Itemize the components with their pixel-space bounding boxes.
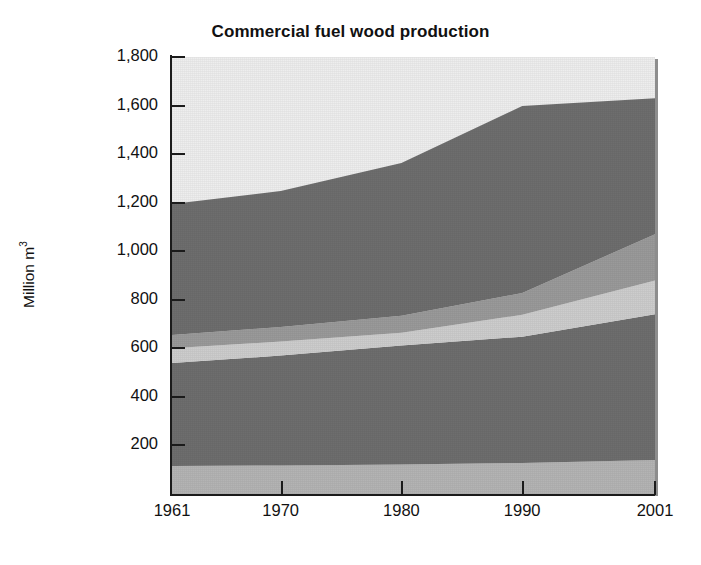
y-axis-line bbox=[170, 55, 172, 496]
y-tick-mark bbox=[172, 105, 185, 107]
x-tick-label: 2001 bbox=[610, 501, 700, 520]
x-tick-label: 1970 bbox=[236, 501, 326, 520]
x-tick-mark bbox=[401, 481, 403, 495]
y-tick-label: 400 bbox=[62, 386, 158, 405]
y-axis-title-text: Million m bbox=[20, 247, 37, 308]
y-tick-label: 1,600 bbox=[62, 95, 158, 114]
y-tick-mark bbox=[172, 153, 185, 155]
y-tick-mark bbox=[172, 299, 185, 301]
y-tick-label: 1,800 bbox=[62, 46, 158, 65]
y-tick-mark bbox=[172, 396, 185, 398]
y-tick-label: 600 bbox=[62, 337, 158, 356]
x-axis-line bbox=[170, 494, 657, 496]
stacked-area-svg bbox=[172, 57, 655, 494]
plot-area bbox=[172, 57, 655, 494]
x-tick-label: 1961 bbox=[127, 501, 217, 520]
x-tick-label: 1980 bbox=[356, 501, 446, 520]
y-tick-mark bbox=[172, 202, 185, 204]
y-axis-title: Million m3 bbox=[18, 185, 37, 365]
y-tick-label: 1,200 bbox=[62, 192, 158, 211]
y-tick-label: 1,000 bbox=[62, 240, 158, 259]
x-tick-label: 1990 bbox=[477, 501, 567, 520]
x-tick-mark bbox=[654, 481, 656, 495]
y-tick-mark bbox=[172, 250, 185, 252]
chart-figure: Commercial fuel wood production Million … bbox=[0, 0, 701, 565]
y-tick-label: 800 bbox=[62, 289, 158, 308]
y-tick-mark bbox=[172, 56, 185, 58]
x-tick-mark bbox=[281, 481, 283, 495]
y-axis-title-exponent: 3 bbox=[18, 241, 29, 247]
chart-title: Commercial fuel wood production bbox=[0, 22, 701, 42]
y-tick-label: 200 bbox=[62, 434, 158, 453]
y-tick-mark bbox=[172, 444, 185, 446]
y-tick-label: 1,400 bbox=[62, 143, 158, 162]
x-tick-mark bbox=[522, 481, 524, 495]
y-tick-mark bbox=[172, 347, 185, 349]
plot-right-shadow bbox=[655, 59, 658, 496]
